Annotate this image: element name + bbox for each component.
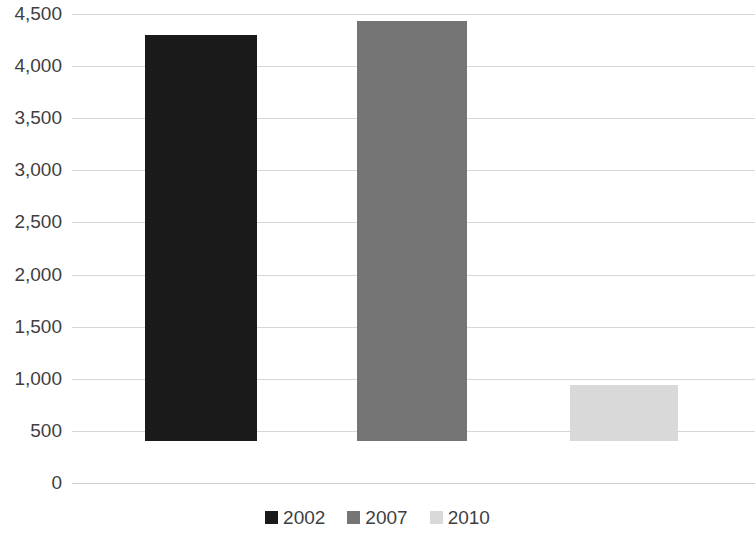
legend-item-2010[interactable]: 2010: [430, 508, 490, 527]
legend-label: 2007: [365, 508, 407, 527]
legend-swatch-icon: [265, 511, 278, 524]
bar-chart: 4,5004,0003,5003,0002,5002,0001,5001,000…: [0, 0, 755, 542]
plot-area: 4,5004,0003,5003,0002,5002,0001,5001,000…: [0, 0, 755, 500]
bars-layer: [0, 0, 755, 500]
legend-label: 2010: [448, 508, 490, 527]
chart-legend: 200220072010: [0, 508, 755, 527]
legend-label: 2002: [283, 508, 325, 527]
legend-swatch-icon: [347, 511, 360, 524]
bar-2002[interactable]: [145, 35, 257, 441]
bar-2010[interactable]: [570, 385, 678, 441]
legend-item-2007[interactable]: 2007: [347, 508, 407, 527]
legend-item-2002[interactable]: 2002: [265, 508, 325, 527]
bar-2007[interactable]: [357, 21, 467, 441]
legend-swatch-icon: [430, 511, 443, 524]
